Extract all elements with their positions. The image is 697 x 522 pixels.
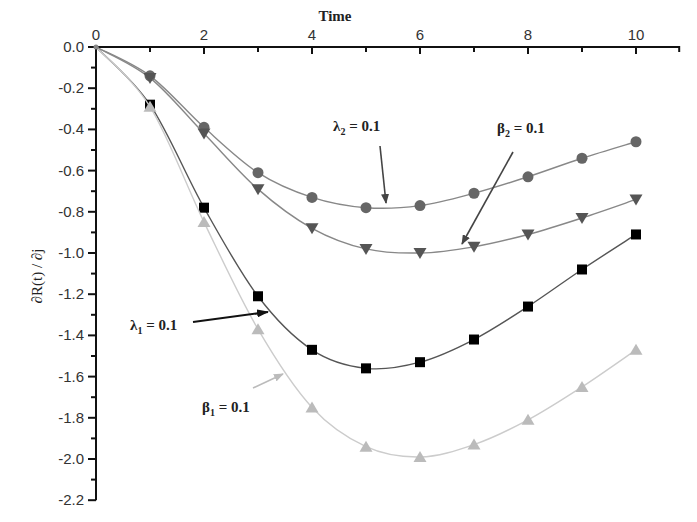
y-tick-label: -1.2 — [58, 285, 84, 302]
x-tick-label: 2 — [200, 26, 208, 43]
data-point-circle — [253, 167, 264, 178]
annotation-lambda2: λ2 = 0.1 — [333, 118, 386, 203]
annotation-lambda1: λ1 = 0.1 — [130, 312, 268, 336]
annotation-label: β2 = 0.1 — [497, 120, 545, 139]
annotation-layer: λ2 = 0.1β2 = 0.1λ1 = 0.1β1 = 0.1 — [130, 118, 545, 418]
data-point-square — [361, 363, 371, 373]
data-point-triangle-up — [576, 381, 589, 392]
data-point-circle — [523, 171, 534, 182]
y-tick-label: -0.2 — [58, 79, 84, 96]
x-axis-title: Time — [318, 8, 351, 24]
series-layer — [94, 45, 643, 462]
x-tick-label: 0 — [92, 26, 100, 43]
data-point-square — [631, 229, 641, 239]
y-tick-label: -2.2 — [58, 491, 84, 508]
y-axis-title: ∂R(t) / ∂j — [29, 249, 46, 304]
y-tick-label: 0.0 — [63, 38, 84, 55]
x-tick-label: 4 — [308, 26, 316, 43]
y-tick-label: -1.0 — [58, 244, 84, 261]
annotation-label: β1 = 0.1 — [202, 399, 250, 418]
data-point-square — [469, 335, 479, 345]
data-point-square — [415, 357, 425, 367]
data-point-triangle-up — [522, 414, 535, 425]
y-tick-label: -2.0 — [58, 450, 84, 467]
series-triangle-up — [96, 47, 643, 462]
data-point-triangle-up — [360, 441, 373, 452]
y-tick-label: -1.4 — [58, 326, 84, 343]
arrow-icon — [380, 146, 386, 203]
y-tick-label: -1.6 — [58, 368, 84, 385]
data-point-circle — [307, 192, 318, 203]
series-line — [96, 47, 636, 253]
arrow-icon — [462, 152, 513, 244]
data-point-triangle-up — [252, 323, 265, 334]
annotation-beta2: β2 = 0.1 — [462, 120, 545, 244]
data-point-circle — [631, 136, 642, 147]
data-point-triangle-up — [468, 439, 481, 450]
y-tick-label: -0.6 — [58, 162, 84, 179]
y-tick-label: -0.4 — [58, 120, 84, 137]
arrow-icon — [253, 374, 283, 388]
y-tick-label: -0.8 — [58, 203, 84, 220]
x-tick-label: 8 — [524, 26, 532, 43]
data-point-triangle-down — [306, 223, 319, 234]
data-point-triangle-down — [576, 213, 589, 224]
annotation-beta1: β1 = 0.1 — [202, 374, 283, 418]
arrow-icon — [193, 312, 268, 322]
data-point-circle — [415, 200, 426, 211]
data-point-square — [199, 203, 209, 213]
data-point-square — [577, 264, 587, 274]
data-point-square — [523, 302, 533, 312]
data-point-triangle-up — [630, 344, 643, 355]
series-triangle-down — [96, 47, 643, 259]
data-point-square — [253, 291, 263, 301]
data-point-circle — [361, 202, 372, 213]
data-point-circle — [469, 188, 480, 199]
data-point-square — [307, 345, 317, 355]
annotation-label: λ2 = 0.1 — [333, 118, 380, 137]
line-chart: 02468100.0-0.2-0.4-0.6-0.8-1.0-1.2-1.4-1… — [0, 0, 697, 522]
x-tick-label: 10 — [628, 26, 645, 43]
data-point-circle — [577, 153, 588, 164]
y-tick-label: -1.8 — [58, 409, 84, 426]
data-point-triangle-up — [198, 216, 211, 227]
x-tick-label: 6 — [416, 26, 424, 43]
annotation-label: λ1 = 0.1 — [130, 317, 177, 336]
data-point-triangle-down — [630, 194, 643, 205]
